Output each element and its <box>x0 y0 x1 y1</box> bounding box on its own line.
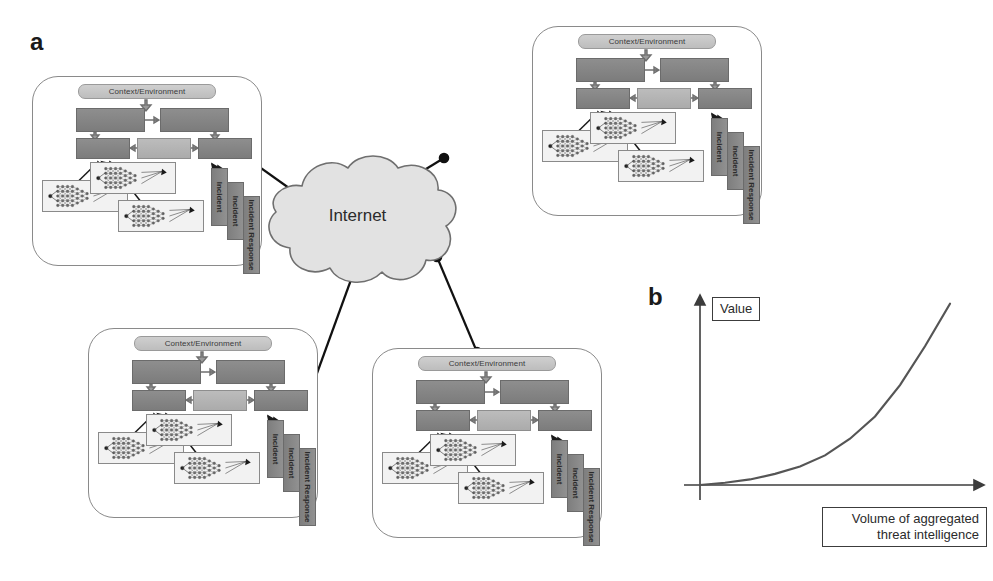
y-axis-arrowhead <box>695 295 705 305</box>
incident-label-3: Incident Response <box>299 448 316 526</box>
process-box-3 <box>416 410 470 431</box>
incident-label-2: Incident <box>567 454 584 512</box>
process-box-5 <box>254 390 308 411</box>
network-thumbnail-3 <box>618 150 704 182</box>
x-axis-label: Volume of aggregated threat intelligence <box>822 507 987 547</box>
org-top-left[interactable]: Context/Environment Incident Incident In… <box>32 76 262 266</box>
context-environment-label: Context/Environment <box>134 336 272 351</box>
network-thumbnail-2 <box>590 112 676 144</box>
incident-label-1: Incident <box>267 420 284 478</box>
process-box-3 <box>576 88 630 109</box>
value-curve-chart: Value Volume of aggregated threat intell… <box>650 285 990 575</box>
process-box-1 <box>416 380 485 404</box>
incident-label-2: Incident <box>727 132 744 190</box>
network-thumbnail-3 <box>118 200 204 232</box>
process-box-5 <box>198 138 252 159</box>
process-box-3 <box>132 390 186 411</box>
x-axis-arrowhead <box>974 480 984 490</box>
network-thumbnail-3 <box>174 452 260 484</box>
incident-label-3: Incident Response <box>743 146 760 224</box>
process-box-1 <box>76 108 145 132</box>
process-box-4 <box>637 88 691 109</box>
process-box-1 <box>132 360 201 384</box>
incident-label-2: Incident <box>283 434 300 492</box>
incident-label-2: Incident <box>227 182 244 240</box>
exponential-curve <box>700 304 950 485</box>
process-box-1 <box>576 58 645 82</box>
incident-label-1: Incident <box>551 440 568 498</box>
network-thumbnail-2 <box>90 162 176 194</box>
process-box-2 <box>660 58 729 82</box>
process-box-4 <box>193 390 247 411</box>
network-thumbnail-2 <box>146 414 232 446</box>
incident-label-3: Incident Response <box>583 468 600 546</box>
org-bottom-right[interactable]: Context/Environment Incident Incident In… <box>372 348 602 538</box>
process-box-3 <box>76 138 130 159</box>
process-box-5 <box>538 410 592 431</box>
process-box-4 <box>137 138 191 159</box>
incident-label-1: Incident <box>711 118 728 176</box>
cloud-label: Internet <box>250 206 465 226</box>
incident-label-1: Incident <box>211 168 228 226</box>
incident-label-3: Incident Response <box>243 196 260 274</box>
process-box-2 <box>216 360 285 384</box>
network-thumbnail-3 <box>458 472 544 504</box>
x-axis-label-text: Volume of aggregated threat intelligence <box>852 511 979 542</box>
y-axis-label: Value <box>712 297 760 321</box>
org-bottom-left[interactable]: Context/Environment Incident Incident In… <box>88 328 318 518</box>
context-environment-label: Context/Environment <box>418 356 556 371</box>
process-box-2 <box>500 380 569 404</box>
process-box-4 <box>477 410 531 431</box>
process-box-5 <box>698 88 752 109</box>
internet-cloud: Internet <box>250 150 465 290</box>
org-top-right[interactable]: Context/Environment Incident Incident In… <box>532 26 762 216</box>
context-environment-label: Context/Environment <box>578 34 716 49</box>
process-box-2 <box>160 108 229 132</box>
network-thumbnail-2 <box>430 434 516 466</box>
context-environment-label: Context/Environment <box>78 84 216 99</box>
